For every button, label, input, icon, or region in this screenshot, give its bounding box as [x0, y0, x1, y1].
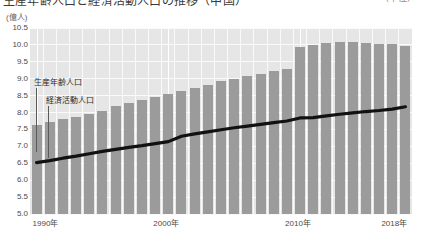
line-series-economically-active-population [30, 28, 412, 214]
y-tick-label: 10.5 [2, 24, 28, 32]
title-right-note: （単位） [380, 0, 416, 4]
y-tick-label: 7.0 [2, 142, 28, 150]
chart-root: 生産年齢人口と経済活動人口の推移（中国） （単位） (億人) 10.510.09… [0, 0, 422, 244]
y-tick-label: 6.5 [2, 159, 28, 167]
y-tick-label: 6.0 [2, 176, 28, 184]
y-tick-label: 9.0 [2, 75, 28, 83]
y-tick-label: 8.0 [2, 109, 28, 117]
y-axis-ticks: 10.510.09.59.08.58.07.57.06.56.05.55.0 [0, 0, 28, 244]
plot-area [30, 28, 412, 214]
annotation-label-economically-active-population: 経済活動人口 [46, 96, 94, 105]
page-title: 生産年齢人口と経済活動人口の推移（中国） [3, 0, 247, 8]
annotation-label-working-age-population: 生産年齢人口 [34, 78, 82, 87]
x-tick-label: 1990年 [33, 217, 59, 228]
annotation-leader-economically-active-population [48, 106, 49, 158]
x-tick-label: 2010年 [285, 217, 311, 228]
x-tick-label: 2018年 [381, 217, 407, 228]
y-tick-label: 5.0 [2, 210, 28, 218]
annotation-leader-working-age-population [36, 88, 37, 152]
y-tick-label: 5.5 [2, 193, 28, 201]
chart-title-strip: 生産年齢人口と経済活動人口の推移（中国） （単位） [0, 0, 422, 9]
y-tick-label: 7.5 [2, 125, 28, 133]
y-tick-label: 10.0 [2, 41, 28, 49]
y-tick-label: 8.5 [2, 92, 28, 100]
y-tick-label: 9.5 [2, 58, 28, 66]
x-tick-label: 2000年 [153, 217, 179, 228]
